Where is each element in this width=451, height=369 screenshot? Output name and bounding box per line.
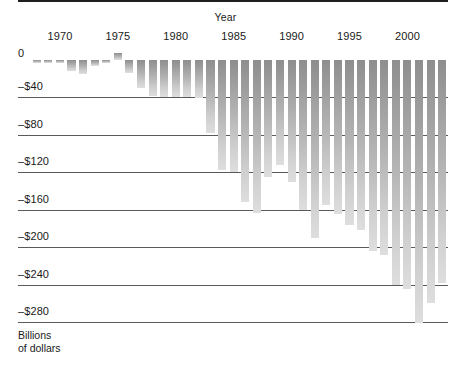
bar <box>415 60 423 323</box>
bar <box>427 60 435 303</box>
zero-axis-line <box>18 0 448 2</box>
bar <box>125 60 133 73</box>
bar <box>56 60 64 63</box>
bars-layer <box>0 0 451 369</box>
bar <box>369 60 377 251</box>
bar <box>253 60 261 213</box>
bar <box>102 60 110 63</box>
plot-area <box>0 0 451 369</box>
bar <box>276 60 284 165</box>
bar <box>403 60 411 289</box>
bar <box>311 60 319 238</box>
bar <box>218 60 226 170</box>
bar <box>299 60 307 210</box>
bar <box>230 60 238 172</box>
bar <box>79 60 87 74</box>
bar <box>357 60 365 230</box>
bar <box>91 60 99 66</box>
bar <box>206 60 214 133</box>
bar <box>137 60 145 88</box>
bar <box>172 60 180 97</box>
bar <box>334 60 342 214</box>
budget-deficit-chart: Year 1970197519801985199019952000 0–$40–… <box>0 0 451 369</box>
bar <box>392 60 400 285</box>
bar <box>67 60 75 71</box>
bar <box>195 60 203 98</box>
bar <box>44 60 52 63</box>
bar <box>322 60 330 205</box>
bar <box>288 60 296 182</box>
bar <box>241 60 249 202</box>
bar <box>438 60 446 283</box>
bar <box>345 60 353 225</box>
bar <box>149 60 157 96</box>
bar <box>114 53 122 60</box>
bar <box>160 60 168 97</box>
bar <box>183 60 191 97</box>
bar <box>380 60 388 255</box>
bar <box>33 60 41 63</box>
bar <box>264 60 272 177</box>
